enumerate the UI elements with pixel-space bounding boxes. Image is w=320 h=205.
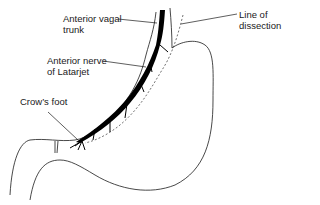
label-line-of-dissection: Line of dissection: [239, 9, 281, 31]
esophagus-wall-right: [170, 8, 172, 48]
esophagus-wall-left: [146, 12, 156, 55]
label-crows-foot: Crow’s foot: [20, 96, 67, 107]
label-anterior-nerve-of-latarjet: Anterior nerve of Latarjet: [47, 55, 107, 77]
anterior-vagal-trunk: [156, 10, 165, 45]
label-anterior-vagal-trunk: Anterior vagal trunk: [63, 13, 122, 35]
pyloric-marks: [55, 141, 58, 153]
